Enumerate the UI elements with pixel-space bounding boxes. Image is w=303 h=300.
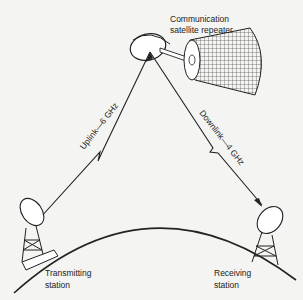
transmitting-label-line1: Transmitting <box>45 268 92 278</box>
receiving-label-line1: Receiving <box>214 268 252 278</box>
satellite-label-line2: satellite repeater <box>170 25 233 35</box>
satellite-body-icon <box>184 28 261 95</box>
satellite-label-line1: Communication <box>170 14 229 24</box>
receiving-label-line2: station <box>214 280 239 290</box>
uplink-label: Uplink—6 GHz <box>78 101 120 151</box>
satellite-link-diagram: Uplink—6 GHz Downlink—4 GHz Communicatio… <box>0 0 303 300</box>
transmitting-label-line2: station <box>45 280 70 290</box>
